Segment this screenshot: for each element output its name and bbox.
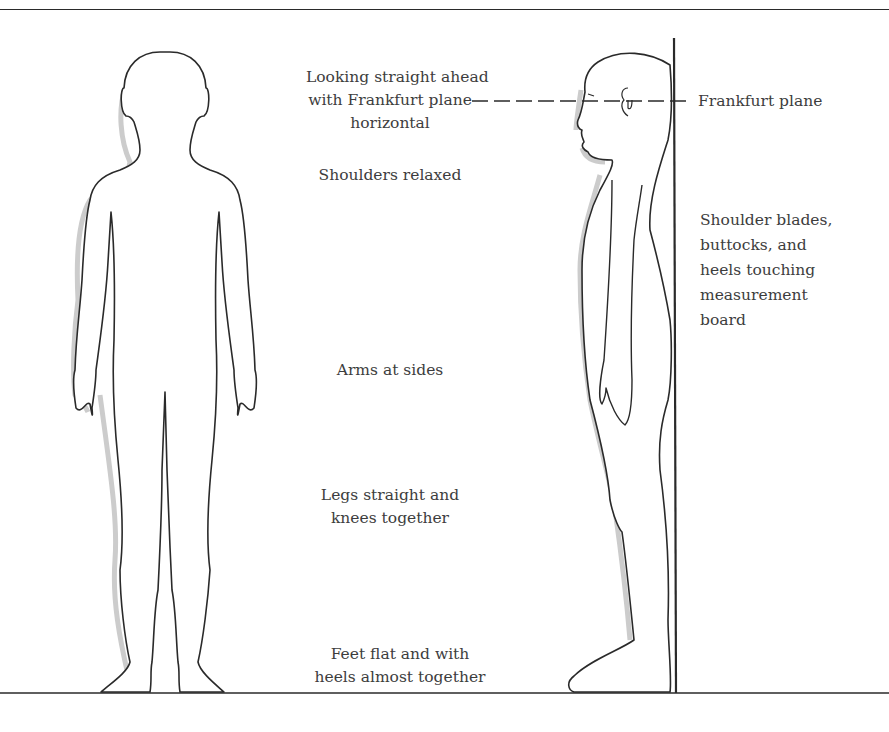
label-shoulders: Shoulders relaxed <box>300 164 480 187</box>
label-board-line1: Shoulder blades, <box>700 208 832 233</box>
label-head-position: Looking straight ahead with Frankfurt pl… <box>306 66 474 135</box>
label-board-line4: measurement <box>700 283 832 308</box>
label-arms-text: Arms at sides <box>300 359 480 382</box>
label-feet: Feet flat and with heels almost together <box>300 643 500 689</box>
label-shoulders-text: Shoulders relaxed <box>300 164 480 187</box>
side-view-figure <box>569 53 672 692</box>
label-feet-line1: Feet flat and with <box>300 643 500 666</box>
measurement-board <box>674 38 676 693</box>
label-legs-line1: Legs straight and <box>300 484 480 507</box>
front-view-figure <box>73 52 256 692</box>
label-frankfurt-plane: Frankfurt plane <box>698 90 822 113</box>
label-arms: Arms at sides <box>300 359 480 382</box>
label-board-line3: heels touching <box>700 258 832 283</box>
label-measurement-board: Shoulder blades, buttocks, and heels tou… <box>700 208 832 333</box>
label-head-line1: Looking straight ahead <box>306 66 474 89</box>
label-feet-line2: heels almost together <box>300 666 500 689</box>
label-head-line3: horizontal <box>306 112 474 135</box>
label-board-line5: board <box>700 308 832 333</box>
label-legs: Legs straight and knees together <box>300 484 480 530</box>
label-head-line2: with Frankfurt plane <box>306 89 474 112</box>
label-legs-line2: knees together <box>300 507 480 530</box>
label-board-line2: buttocks, and <box>700 233 832 258</box>
label-frankfurt-text: Frankfurt plane <box>698 90 822 113</box>
front-figure-outline <box>73 52 256 692</box>
